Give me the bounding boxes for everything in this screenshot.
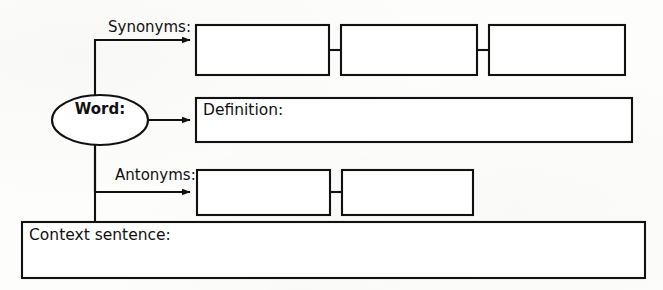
synonym-box-2[interactable]: [341, 25, 477, 75]
context-sentence-label: Context sentence:: [29, 226, 171, 244]
definition-label: Definition:: [203, 101, 283, 119]
synonym-box-3[interactable]: [489, 25, 625, 75]
antonym-box-2[interactable]: [342, 170, 473, 215]
antonym-box-1[interactable]: [197, 170, 330, 215]
connector-word-to-synonyms: [95, 40, 190, 95]
word-graphic-organizer: Synonyms: Word: Definition: Antonyms: Co…: [0, 0, 663, 290]
word-node-label: Word:: [75, 100, 125, 118]
antonyms-label: Antonyms:: [115, 166, 196, 184]
synonym-box-1[interactable]: [196, 25, 329, 75]
synonyms-label: Synonyms:: [108, 18, 191, 36]
